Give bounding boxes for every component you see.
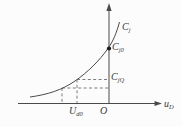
q-point-label-cjq: CjQ — [111, 72, 124, 84]
origin-label: O — [100, 106, 107, 116]
bias-voltage-label-ud0: Ud0 — [69, 106, 83, 118]
cv-characteristic-figure: Cj Cj0 CjQ Ud0 O uD — [0, 0, 182, 127]
x-axis-label-ud: uD — [164, 99, 174, 111]
curve-label-sub: j — [129, 26, 131, 33]
curve-label-cj: Cj — [122, 22, 130, 34]
q-point-label-sub: jQ — [118, 76, 125, 83]
diagram-canvas — [0, 0, 182, 127]
q-point-label-main: C — [111, 71, 118, 82]
zero-bias-label-sub: j0 — [119, 46, 124, 53]
origin-label-main: O — [100, 105, 107, 116]
zero-bias-label-cj0: Cj0 — [112, 42, 124, 54]
y-axis-arrow-icon — [106, 3, 111, 11]
x-axis-arrow-icon — [155, 101, 163, 106]
zero-bias-point-dot — [107, 46, 111, 50]
bias-voltage-label-sub: d0 — [76, 110, 83, 117]
x-axis-label-sub: D — [169, 103, 174, 110]
zero-bias-label-main: C — [112, 41, 119, 52]
curve-label-main: C — [122, 21, 129, 32]
capacitance-curve — [30, 22, 120, 97]
